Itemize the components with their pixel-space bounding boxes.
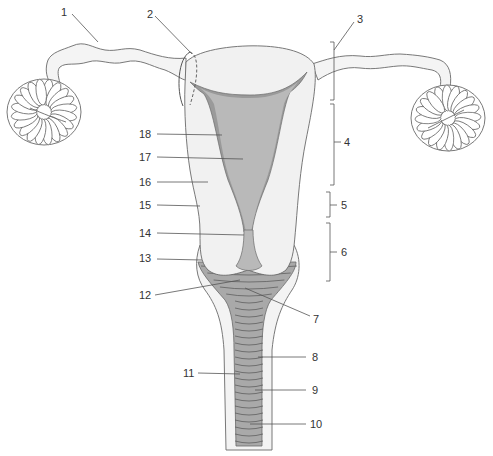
- callout-13: 13: [139, 252, 151, 264]
- callout-9: 9: [312, 384, 318, 396]
- callout-6: 6: [341, 246, 347, 258]
- callout-5: 5: [341, 199, 347, 211]
- left-fimbriae: [7, 79, 81, 146]
- callout-16: 16: [139, 176, 151, 188]
- callout-10: 10: [310, 418, 322, 430]
- callout-14: 14: [139, 227, 151, 239]
- callout-4: 4: [344, 136, 350, 148]
- callout-17: 17: [139, 151, 151, 163]
- callout-7: 7: [313, 313, 319, 325]
- callout-3: 3: [357, 13, 363, 25]
- left-tube: [46, 44, 186, 83]
- callout-11: 11: [183, 367, 194, 379]
- callout-15: 15: [139, 199, 151, 211]
- bracket-4: [330, 104, 341, 185]
- right-fimbriae: [411, 85, 485, 151]
- right-tube: [312, 54, 451, 88]
- bracket-5: [326, 192, 337, 217]
- callout-12: 12: [139, 289, 151, 301]
- bracket-6: [326, 223, 337, 281]
- callout-1: 1: [61, 6, 67, 18]
- callout-18: 18: [139, 128, 151, 140]
- anatomy-diagram: 1 2 3 4 5 6 7 8 9 10 11 12 13 14 15 16 1…: [0, 0, 493, 456]
- callout-8: 8: [312, 351, 318, 363]
- callout-2: 2: [147, 8, 153, 20]
